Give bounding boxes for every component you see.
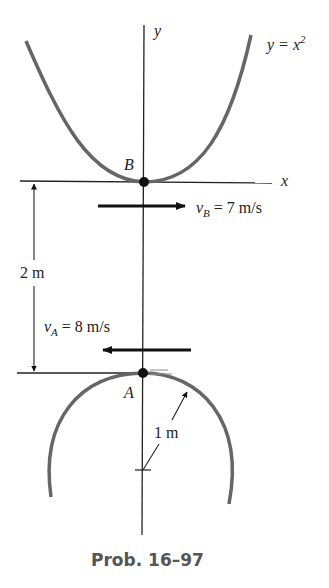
point-a-label: A [123, 384, 134, 401]
y-axis-label: y [152, 22, 162, 40]
point-b [139, 177, 149, 187]
point-a [138, 368, 148, 378]
curve-label: y = x2 [265, 33, 306, 54]
diagram-canvas: y y = x2 B x vB= 7 m/s 2 m vA= 8 m/s A 1… [0, 0, 329, 588]
figure-caption: Prob. 16–97 [91, 550, 204, 570]
x-axis-label: x [280, 172, 288, 189]
point-b-label: B [124, 156, 134, 173]
radius-label: 1 m [154, 424, 179, 441]
circle-arc [49, 373, 232, 504]
distance-label: 2 m [20, 264, 45, 281]
vb-label: vB= 7 m/s [196, 199, 262, 219]
y-axis [142, 25, 144, 535]
radius-arrow-upper [172, 392, 187, 420]
va-label: vA= 8 m/s [44, 318, 110, 338]
parabola-curve [26, 35, 251, 182]
radius-arrow-lower [143, 444, 159, 470]
